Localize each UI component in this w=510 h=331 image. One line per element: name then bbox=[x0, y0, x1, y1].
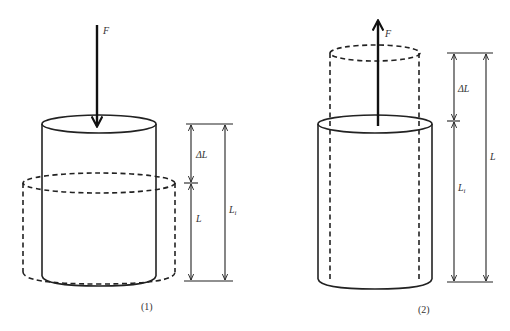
l-initial-label: Li bbox=[228, 204, 237, 217]
dimension-lines-2 bbox=[447, 53, 493, 282]
force-label: F bbox=[102, 25, 110, 36]
l-initial-label-2: Li bbox=[457, 182, 466, 195]
l-label-2: L bbox=[489, 151, 496, 162]
dimension-lines-1 bbox=[184, 124, 233, 281]
delta-l-label: ΔL bbox=[195, 149, 208, 160]
force-label-2: F bbox=[384, 28, 392, 39]
panel-tension: F ΔL Li L (2) bbox=[318, 21, 496, 316]
stretched-cylinder-outline bbox=[330, 45, 420, 282]
force-arrow-up: F bbox=[378, 21, 392, 126]
force-arrow-down: F bbox=[97, 25, 110, 126]
stress-strain-diagram: F ΔL L Li (1) bbox=[0, 0, 510, 331]
caption-1: (1) bbox=[141, 301, 153, 313]
caption-2: (2) bbox=[418, 304, 430, 316]
compressed-cylinder-outline bbox=[23, 173, 175, 284]
l-label: L bbox=[195, 213, 202, 224]
delta-l-label-2: ΔL bbox=[457, 83, 470, 94]
original-cylinder-2 bbox=[318, 115, 432, 289]
panel-compression: F ΔL L Li (1) bbox=[23, 25, 237, 313]
original-cylinder bbox=[42, 115, 156, 286]
